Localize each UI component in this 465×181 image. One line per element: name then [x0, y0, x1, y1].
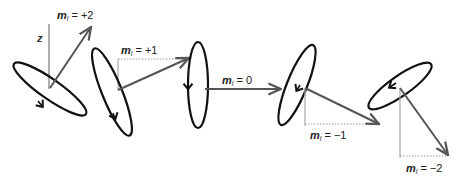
momentum-vector-arrow — [400, 88, 448, 155]
orbit-direction-arrow-icon — [297, 85, 300, 90]
state-label: ml = −2 — [406, 162, 442, 175]
momentum-vector-arrow — [50, 27, 91, 88]
state-ml-minus-2: ml = −2 — [363, 56, 448, 175]
orbital-angular-momentum-diagram: z ml = +2 ml = +1 ml = 0 ml = − — [0, 0, 465, 181]
state-ml-plus-1: ml = +1 — [85, 44, 189, 139]
orbit-ellipse — [8, 56, 92, 123]
state-ml-plus-2: z ml = +2 — [8, 9, 93, 122]
state-ml-zero: ml = 0 — [188, 42, 281, 128]
orbit-direction-arrow-icon — [38, 101, 42, 106]
state-label: ml = −1 — [310, 129, 346, 142]
orbit-ellipse — [272, 41, 323, 128]
z-axis-label: z — [36, 32, 43, 44]
orbit-direction-arrow-icon — [390, 83, 396, 87]
state-label: ml = +1 — [121, 44, 157, 57]
state-label: ml = +2 — [57, 9, 93, 22]
orbit-ellipse — [188, 42, 208, 128]
state-ml-minus-1: ml = −1 — [272, 41, 379, 142]
momentum-vector-arrow — [118, 58, 189, 90]
state-label: ml = 0 — [222, 74, 252, 87]
